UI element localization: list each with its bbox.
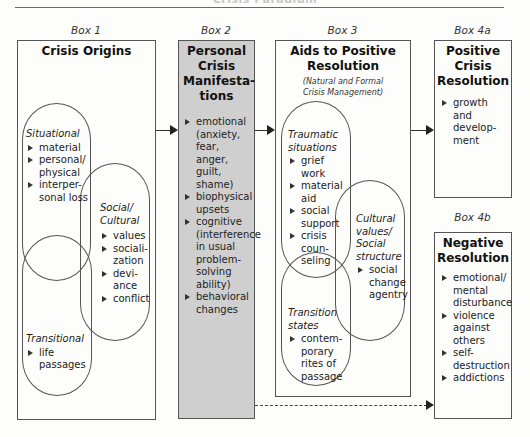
bullet-triangle-icon xyxy=(442,350,447,356)
bullet-triangle-icon xyxy=(358,267,363,273)
list-item: behavioral changes xyxy=(183,291,252,316)
bullet-triangle-icon xyxy=(290,336,295,342)
bullet-triangle-icon xyxy=(185,119,190,125)
list-item: addictions xyxy=(440,372,509,385)
arrow-head-icon xyxy=(170,125,178,135)
bullet-triangle-icon xyxy=(290,233,295,239)
list-item: values xyxy=(100,230,150,243)
bullet-triangle-icon xyxy=(442,375,447,381)
header-rule xyxy=(15,7,504,8)
bullet-triangle-icon xyxy=(102,296,107,302)
list-item: grief work xyxy=(288,155,350,180)
list-item: social support xyxy=(288,205,350,230)
list-item: growth and develop- ment xyxy=(440,97,509,147)
box3-subtitle: (Natural and Formal Crisis Management) xyxy=(296,76,390,98)
traumatic-heading: Traumatic situations xyxy=(288,129,350,154)
box4b-title: Negative Resolution xyxy=(435,236,511,266)
bullet-triangle-icon xyxy=(102,233,107,239)
list-item: biophysical upsets xyxy=(183,191,252,216)
arrow-box1-to-box2 xyxy=(156,130,171,131)
box3-title: Aids to Positive Resolution xyxy=(276,44,410,74)
bullet-triangle-icon xyxy=(290,158,295,164)
box1-label: Box 1 xyxy=(17,24,155,36)
transitional-group: Transitional life passages xyxy=(26,333,90,372)
bullet-triangle-icon xyxy=(28,350,33,356)
social-cultural-heading: Social/ Cultural xyxy=(100,202,150,227)
list-item: life passages xyxy=(26,347,90,372)
arrow-head-icon xyxy=(426,125,434,135)
transitional-oval xyxy=(22,235,92,396)
situational-group: Situational material personal/ physical … xyxy=(26,128,90,204)
bullet-triangle-icon xyxy=(442,313,447,319)
box4b-list: emotional/ mental disturbance violence a… xyxy=(440,272,509,385)
list-item: cognitive (interference in usual problem… xyxy=(183,216,252,291)
bullet-triangle-icon xyxy=(290,208,295,214)
bullet-triangle-icon xyxy=(290,183,295,189)
bullet-triangle-icon xyxy=(102,271,107,277)
list-item: self- destruction xyxy=(440,347,509,372)
arrow-head-icon xyxy=(426,400,434,410)
list-item: violence against others xyxy=(440,310,509,348)
box4a-positive-crisis-resolution: Positive Crisis Resolution growth and de… xyxy=(434,40,512,198)
bullet-triangle-icon xyxy=(28,145,33,151)
list-item: interper- sonal loss xyxy=(26,179,90,204)
cultural-values-group: Cultural values/ Social structure social… xyxy=(356,213,406,302)
box1-title: Crisis Origins xyxy=(18,44,155,59)
list-item: material xyxy=(26,142,90,155)
social-cultural-group: Social/ Cultural values sociali- zation … xyxy=(100,202,150,305)
bullet-triangle-icon xyxy=(28,157,33,163)
list-item: sociali- zation xyxy=(100,243,150,268)
box4a-list: growth and develop- ment xyxy=(440,97,509,147)
list-item: emotional/ mental disturbance xyxy=(440,272,509,310)
bullet-triangle-icon xyxy=(185,219,190,225)
list-item: personal/ physical xyxy=(26,154,90,179)
list-item: material aid xyxy=(288,180,350,205)
bullet-triangle-icon xyxy=(442,275,447,281)
traumatic-group: Traumatic situations grief work material… xyxy=(288,129,350,268)
arrow-box3-to-box4a xyxy=(411,130,427,131)
bullet-triangle-icon xyxy=(185,194,190,200)
box4b-label: Box 4b xyxy=(434,211,511,223)
list-item: devi- ance xyxy=(100,268,150,293)
list-item: social change agentry xyxy=(356,264,406,302)
situational-heading: Situational xyxy=(26,128,90,141)
bullet-triangle-icon xyxy=(185,294,190,300)
transition-states-group: Transition states contem- porary rites o… xyxy=(288,307,348,383)
bullet-triangle-icon xyxy=(28,182,33,188)
box4b-negative-resolution: Negative Resolution emotional/ mental di… xyxy=(434,232,512,419)
bullet-triangle-icon xyxy=(102,246,107,252)
arrow-head-icon xyxy=(267,125,275,135)
box2-label: Box 2 xyxy=(178,24,254,36)
box2-list: emotional (anxiety, fear, anger, guilt, … xyxy=(183,116,252,316)
cultural-values-heading: Cultural values/ Social structure xyxy=(356,213,406,263)
dashed-arrow-box2-to-box4b xyxy=(255,405,427,406)
transition-states-heading: Transition states xyxy=(288,307,348,332)
bullet-triangle-icon xyxy=(442,100,447,106)
list-item: contem- porary rites of passage xyxy=(288,333,348,383)
box2-personal-crisis-manifestations: Personal Crisis Manifesta- tions emotion… xyxy=(178,40,255,419)
box4a-title: Positive Crisis Resolution xyxy=(435,44,511,89)
box2-title: Personal Crisis Manifesta- tions xyxy=(183,44,250,104)
list-item: conflict xyxy=(100,293,150,306)
list-item: emotional (anxiety, fear, anger, guilt, … xyxy=(183,116,252,191)
box4a-label: Box 4a xyxy=(434,24,511,36)
cut-off-title: Crisis Paradigm xyxy=(160,0,370,3)
transitional-heading: Transitional xyxy=(26,333,90,346)
list-item: crisis coun- seling xyxy=(288,230,350,268)
box3-label: Box 3 xyxy=(275,24,410,36)
